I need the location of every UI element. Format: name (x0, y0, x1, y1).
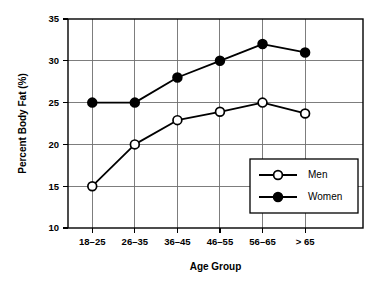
chart-legend: MenWomen (250, 159, 358, 213)
x-tick-label: 18–25 (79, 236, 106, 247)
y-tick-label: 25 (48, 97, 59, 108)
x-tick-label: 36–45 (164, 236, 191, 247)
x-tick-label: 56–65 (249, 236, 276, 247)
legend-marker (274, 171, 283, 180)
body-fat-by-age-line-chart: 101520253035 18–2526–3536–4546–5556–65> … (0, 0, 383, 288)
y-tick-label: 35 (48, 13, 59, 24)
y-tick-label: 10 (48, 222, 59, 233)
data-point (258, 40, 267, 49)
data-point (130, 140, 139, 149)
x-tick-label: 46–55 (207, 236, 234, 247)
y-tick-label: 30 (48, 55, 59, 66)
data-point (130, 98, 139, 107)
data-point (258, 98, 267, 107)
y-tick-label: 20 (48, 139, 59, 150)
chart-container: 101520253035 18–2526–3536–4546–5556–65> … (0, 0, 383, 288)
data-point (88, 182, 97, 191)
legend-label: Women (308, 191, 342, 202)
data-point (88, 98, 97, 107)
y-tick-label: 15 (48, 181, 59, 192)
legend-marker (274, 193, 283, 202)
x-axis-title: Age Group (190, 261, 242, 272)
x-tick-label: > 65 (296, 236, 315, 247)
x-tick-label: 26–35 (122, 236, 149, 247)
data-point (301, 109, 310, 118)
data-point (216, 107, 225, 116)
data-point (216, 56, 225, 65)
data-point (301, 48, 310, 57)
data-point (173, 116, 182, 125)
y-axis-title: Percent Body Fat (%) (17, 73, 28, 174)
legend-label: Men (308, 169, 327, 180)
legend-box (250, 159, 358, 213)
data-point (173, 73, 182, 82)
